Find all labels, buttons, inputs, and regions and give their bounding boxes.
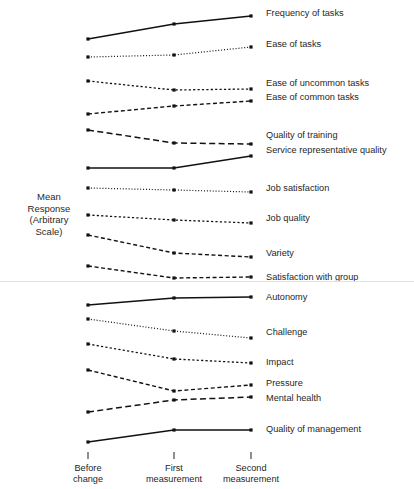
series-line [86, 14, 252, 40]
x-tick-label-line-1: First [134, 463, 214, 474]
data-point-marker [249, 221, 252, 224]
series-line [86, 428, 252, 443]
series-label: Autonomy [266, 292, 307, 302]
data-point-marker [249, 295, 252, 298]
scan-line-artifact [0, 281, 414, 282]
series-line [86, 295, 252, 306]
data-point-marker [86, 303, 89, 306]
data-point-marker [172, 357, 175, 360]
data-point-marker [172, 218, 175, 221]
y-axis-label-line-2: Response [16, 203, 82, 215]
data-point-marker [249, 87, 252, 90]
data-point-marker [86, 410, 89, 413]
data-point-marker [249, 428, 252, 431]
series-label: Ease of tasks [266, 39, 321, 49]
series-line [86, 45, 252, 58]
series-line [86, 213, 252, 224]
data-point-marker [249, 14, 252, 17]
data-point-marker [172, 428, 175, 431]
data-point-marker [172, 104, 175, 107]
series-label: Job quality [266, 213, 310, 223]
series-label: Service representative quality [266, 145, 387, 155]
data-point-marker [249, 361, 252, 364]
series-line [86, 79, 252, 91]
series-line [86, 186, 252, 193]
series-label: Variety [266, 248, 294, 258]
data-point-marker [86, 213, 89, 216]
y-axis-label-line-4: Scale) [16, 226, 82, 238]
data-point-marker [172, 166, 175, 169]
data-point-marker [249, 142, 252, 145]
data-point-marker [172, 329, 175, 332]
data-point-marker [86, 79, 89, 82]
series-line [86, 99, 252, 115]
data-point-marker [86, 37, 89, 40]
chart-plot-area [0, 0, 414, 489]
series-line [86, 342, 252, 364]
x-tick-label-line-2: change [48, 474, 128, 485]
data-point-marker [172, 251, 175, 254]
series-label: Ease of common tasks [266, 92, 359, 102]
series-label: Pressure [266, 378, 303, 388]
data-point-marker [86, 317, 89, 320]
series-line [86, 128, 252, 145]
series-label: Mental health [266, 393, 321, 403]
data-point-marker [249, 336, 252, 339]
data-point-marker [86, 233, 89, 236]
series-line [86, 395, 252, 413]
data-point-marker [172, 276, 175, 279]
data-point-marker [86, 368, 89, 371]
series-line [86, 154, 252, 169]
data-point-marker [249, 45, 252, 48]
x-tick-label-line-1: Second [211, 463, 291, 474]
data-point-marker [86, 166, 89, 169]
data-point-marker [86, 264, 89, 267]
data-point-marker [249, 383, 252, 386]
x-tick-label-line-2: measurement [134, 474, 214, 485]
data-point-marker [172, 389, 175, 392]
x-axis-tick-label: Firstmeasurement [134, 463, 214, 484]
data-point-marker [86, 440, 89, 443]
data-point-marker [249, 99, 252, 102]
series-line [86, 264, 252, 279]
series-label: Ease of uncommon tasks [266, 78, 369, 88]
data-point-marker [172, 296, 175, 299]
data-point-marker [249, 275, 252, 278]
data-point-marker [86, 186, 89, 189]
data-point-marker [86, 55, 89, 58]
series-line [86, 368, 252, 392]
series-label: Impact [266, 357, 294, 367]
series-label: Quality of training [266, 130, 338, 140]
data-point-marker [249, 255, 252, 258]
series-line [86, 317, 252, 339]
data-point-marker [172, 88, 175, 91]
data-point-marker [172, 22, 175, 25]
data-point-marker [86, 112, 89, 115]
x-axis-tick-label: Beforechange [48, 463, 128, 484]
data-point-marker [172, 398, 175, 401]
series-label: Quality of management [266, 424, 361, 434]
data-point-marker [249, 190, 252, 193]
x-tick-label-line-2: measurement [211, 474, 291, 485]
data-point-marker [86, 128, 89, 131]
y-axis-label: Mean Response (Arbitrary Scale) [16, 191, 82, 237]
series-label: Frequency of tasks [266, 8, 344, 18]
y-axis-label-line-1: Mean [16, 191, 82, 203]
data-point-marker [249, 395, 252, 398]
data-point-marker [172, 141, 175, 144]
series-label: Job satisfaction [266, 183, 329, 193]
data-point-marker [249, 154, 252, 157]
series-label: Challenge [266, 327, 307, 337]
data-point-marker [86, 342, 89, 345]
x-tick-label-line-1: Before [48, 463, 128, 474]
x-axis-tick-label: Secondmeasurement [211, 463, 291, 484]
line-chart: Mean Response (Arbitrary Scale) Frequenc… [0, 0, 414, 489]
series-line [86, 233, 252, 258]
data-point-marker [172, 53, 175, 56]
y-axis-label-line-3: (Arbitrary [16, 214, 82, 226]
data-point-marker [172, 188, 175, 191]
